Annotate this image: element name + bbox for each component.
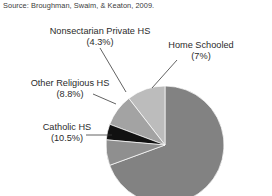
callout-percent-nonsectarian: (4.3%): [36, 37, 164, 48]
callout-catholic-hs: Catholic HS (10.5%): [16, 122, 118, 145]
pie-chart-screenshot: Source: Broughman, Swaim, & Keaton, 2009…: [0, 0, 272, 196]
leader-line-home-schooled: [152, 60, 177, 88]
callout-home-schooled: Home Schooled (7%): [155, 40, 247, 63]
pie-chart-figure: Nonsectarian Private HS (4.3%) Home Scho…: [0, 0, 272, 196]
callout-label-home-schooled: Home Schooled: [155, 40, 247, 51]
callout-nonsectarian-private-hs: Nonsectarian Private HS (4.3%): [36, 26, 164, 49]
callout-label-catholic: Catholic HS: [16, 122, 118, 133]
callout-percent-home-schooled: (7%): [155, 51, 247, 62]
pie-slices: [106, 86, 224, 196]
callout-percent-catholic: (10.5%): [16, 133, 118, 144]
callout-label-other-religious: Other Religious HS: [14, 78, 126, 89]
callout-other-religious-hs: Other Religious HS (8.8%): [14, 78, 126, 101]
callout-percent-other-religious: (8.8%): [14, 89, 126, 100]
callout-label-nonsectarian: Nonsectarian Private HS: [36, 26, 164, 37]
